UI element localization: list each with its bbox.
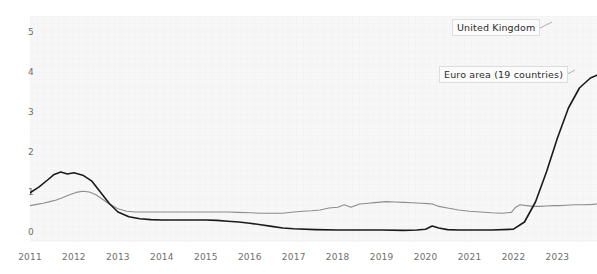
series-label-united-kingdom: United Kingdom: [452, 19, 540, 36]
series-label-euro-area: Euro area (19 countries): [439, 66, 568, 83]
series-layer: [0, 0, 597, 274]
line-chart: 012345 201120122013201420152016201720182…: [0, 0, 597, 274]
